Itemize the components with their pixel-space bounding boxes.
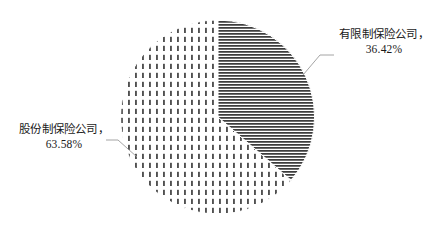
pie-label-limited-name: 有限制保险公司， xyxy=(330,27,438,42)
pie-label-limited: 有限制保险公司， 36.42% xyxy=(330,27,438,57)
leader-line-limited xyxy=(303,55,334,75)
pie-label-joint-stock-value: 63.58% xyxy=(8,137,120,152)
pie-label-joint-stock: 股份制保险公司， 63.58% xyxy=(8,122,120,152)
pie-label-joint-stock-name: 股份制保险公司， xyxy=(8,122,120,137)
pie-label-limited-value: 36.42% xyxy=(330,42,438,57)
pie-chart: 有限制保险公司， 36.42% 股份制保险公司， 63.58% xyxy=(0,0,442,227)
